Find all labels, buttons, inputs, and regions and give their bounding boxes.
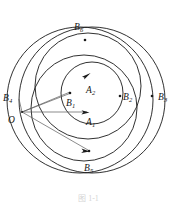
label-B5: B5 — [84, 164, 93, 174]
dot-B3 — [151, 95, 154, 98]
label-B3: B3 — [158, 93, 167, 103]
label-B2: B2 — [123, 93, 132, 103]
geometry-figure: B6 B4 O B1 A2 A1 B2 B3 B5 图 1-1 — [0, 0, 177, 204]
point-dots-group — [21, 39, 153, 153]
dot-B2 — [119, 95, 122, 98]
label-B1: B1 — [66, 99, 75, 109]
label-B4: B4 — [3, 94, 12, 104]
circle-outer-right — [19, 27, 165, 173]
arrow-top-A2-icon — [82, 73, 91, 80]
ray-O-to-B5 — [22, 112, 88, 150]
label-B6: B6 — [74, 23, 83, 33]
dot-B5 — [88, 150, 91, 153]
dot-B1 — [69, 92, 72, 95]
figure-caption: 图 1-1 — [0, 194, 177, 204]
circle-middle-lower — [31, 55, 137, 161]
label-A2: A2 — [86, 86, 95, 96]
rays-group — [19, 92, 88, 150]
dot-O — [21, 111, 23, 113]
dot-B6 — [84, 39, 87, 42]
label-A1: A1 — [86, 118, 95, 128]
label-O: O — [8, 116, 15, 126]
